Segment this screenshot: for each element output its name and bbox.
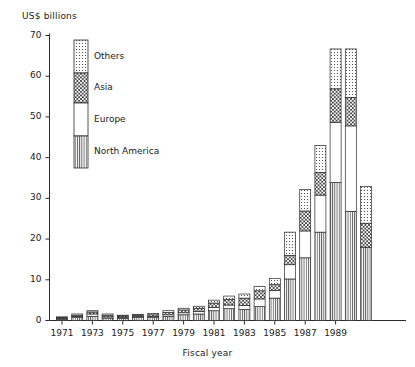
bar-segment (178, 310, 189, 313)
y-axis-tick-label: 70 (20, 30, 42, 40)
bar-segment (163, 312, 174, 314)
bar-segment (254, 286, 265, 290)
bar-segment (209, 300, 220, 303)
bar-segment (239, 310, 250, 321)
bar-segment (224, 309, 235, 321)
bar-segment (193, 306, 204, 308)
bar-segment (239, 298, 250, 305)
bar-segment (330, 122, 341, 182)
bar-segment (300, 211, 311, 231)
bar-segment (209, 307, 220, 310)
plot-area (0, 0, 415, 367)
bar-segment (239, 305, 250, 309)
bar-segment (57, 317, 68, 318)
bar-segment (269, 290, 280, 298)
bar-segment (224, 305, 235, 309)
bar-segment (72, 314, 83, 315)
bar-segment (315, 232, 326, 320)
bar-segment (345, 126, 356, 212)
bar-segment (87, 314, 98, 316)
bar-segment (345, 49, 356, 97)
bar-segment (254, 307, 265, 321)
y-axis-tick-label: 30 (20, 192, 42, 202)
y-axis-title: US$ billions (22, 11, 77, 21)
bar-segment (224, 299, 235, 305)
bar-segment (315, 172, 326, 195)
legend-swatch (74, 73, 88, 103)
bar-segment (209, 311, 220, 321)
bar-segment (285, 255, 296, 264)
bar-segment (239, 294, 250, 298)
bar-segment (300, 258, 311, 321)
bar-segment (269, 298, 280, 320)
y-axis-tick-label: 10 (20, 274, 42, 284)
legend-item-label: North America (94, 146, 159, 156)
y-axis-tick-label: 40 (20, 152, 42, 162)
bar-segment (148, 318, 159, 321)
bar-segment (269, 285, 280, 291)
bar-segment (285, 232, 296, 255)
bar-segment (330, 49, 341, 89)
bar-segment (300, 231, 311, 258)
bar-segment (254, 291, 265, 299)
bar-segment (330, 89, 341, 122)
bar-segment (269, 279, 280, 285)
bar-segment (193, 312, 204, 314)
y-axis-tick-label: 0 (20, 315, 42, 325)
bar-segment (254, 299, 265, 307)
bar-segment (315, 145, 326, 172)
bar-segment (361, 223, 372, 247)
bar-segment (133, 318, 144, 321)
bar-segment (285, 279, 296, 321)
bar-segment (361, 247, 372, 320)
x-axis-title: Fiscal year (0, 348, 415, 358)
bar-segment (193, 314, 204, 321)
y-axis-tick-label: 20 (20, 233, 42, 243)
bar-segment (178, 315, 189, 321)
bar-segment (163, 311, 174, 313)
x-axis-tick-label: 1989 (316, 328, 356, 338)
y-axis-tick-label: 60 (20, 70, 42, 80)
bar-segment (163, 316, 174, 320)
bar-segment (178, 308, 189, 310)
legend-item-label: Europe (94, 114, 126, 124)
bar-segment (285, 265, 296, 279)
y-axis-tick-label: 50 (20, 111, 42, 121)
bar-segment (133, 314, 144, 315)
bar-segment (72, 318, 83, 321)
legend-item-label: Asia (94, 82, 113, 92)
bar-segment (148, 314, 159, 315)
bar-segment (345, 211, 356, 320)
bar-segment (193, 308, 204, 311)
bar-segment (345, 97, 356, 126)
bar-segment (315, 195, 326, 232)
legend-swatch (74, 103, 88, 136)
legend-swatch (74, 136, 88, 168)
bar-segment (361, 187, 372, 224)
bar-segment (330, 182, 341, 320)
legend-item-label: Others (94, 51, 124, 61)
bar-segment (102, 314, 113, 315)
bar-segment (87, 316, 98, 320)
stacked-bar-chart: US$ billions Fiscal year 010203040506070 (0, 0, 415, 367)
bar-segment (224, 296, 235, 299)
bar-segment (87, 311, 98, 312)
legend-swatch (74, 40, 88, 73)
bar-segment (300, 189, 311, 211)
bar-segment (102, 318, 113, 320)
bar-segment (209, 303, 220, 307)
bar-segment (117, 315, 128, 316)
